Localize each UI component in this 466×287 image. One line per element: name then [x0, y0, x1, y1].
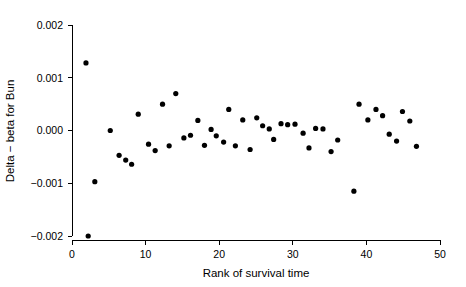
data-point	[160, 102, 165, 107]
data-point	[254, 115, 259, 120]
plot-canvas: −0.002−0.0010.0000.0010.002 01020304050 …	[0, 0, 466, 287]
x-tick-label: 50	[434, 248, 446, 260]
data-point	[356, 102, 361, 107]
data-point	[394, 138, 399, 143]
data-point	[86, 233, 91, 238]
data-point	[320, 126, 325, 131]
x-tick-label: 20	[213, 248, 225, 260]
data-point	[214, 133, 219, 138]
data-point	[260, 123, 265, 128]
data-point	[208, 127, 213, 132]
data-point	[240, 117, 245, 122]
y-tick-label: 0.000	[37, 124, 63, 136]
x-tick-label: 0	[69, 248, 75, 260]
data-point	[108, 128, 113, 133]
data-point	[146, 142, 151, 147]
data-point	[351, 189, 356, 194]
y-axis: −0.002−0.0010.0000.0010.002	[31, 19, 72, 242]
x-tick-label: 30	[287, 248, 299, 260]
data-point	[233, 143, 238, 148]
data-point	[407, 118, 412, 123]
y-tick-label: 0.002	[37, 19, 63, 31]
data-point	[414, 144, 419, 149]
data-point	[123, 157, 128, 162]
data-point	[221, 140, 226, 145]
data-point	[248, 147, 253, 152]
data-point	[328, 149, 333, 154]
data-point	[153, 148, 158, 153]
y-tick-label: −0.001	[31, 177, 64, 189]
data-point	[365, 117, 370, 122]
data-point	[285, 122, 290, 127]
data-point	[181, 135, 186, 140]
data-point	[271, 137, 276, 142]
data-point	[380, 113, 385, 118]
data-points-layer	[83, 60, 419, 238]
x-axis: 01020304050	[69, 240, 446, 260]
data-point	[173, 91, 178, 96]
data-point	[129, 162, 134, 167]
y-tick-label: −0.002	[31, 230, 64, 242]
data-point	[335, 137, 340, 142]
data-point	[387, 132, 392, 137]
data-point	[195, 118, 200, 123]
data-point	[202, 143, 207, 148]
data-point	[167, 143, 172, 148]
x-tick-label: 10	[140, 248, 152, 260]
y-axis-ticks: −0.002−0.0010.0000.0010.002	[31, 19, 72, 242]
data-point	[267, 126, 272, 131]
x-axis-ticks: 01020304050	[69, 240, 446, 260]
data-point	[116, 153, 121, 158]
y-axis-title: Delta − beta for Bun	[4, 80, 16, 183]
data-point	[313, 126, 318, 131]
data-point	[92, 179, 97, 184]
data-point	[136, 112, 141, 117]
data-point	[83, 60, 88, 65]
data-point	[188, 133, 193, 138]
data-point	[292, 122, 297, 127]
y-tick-label: 0.001	[37, 72, 63, 84]
data-point	[278, 121, 283, 126]
x-tick-label: 40	[361, 248, 373, 260]
x-axis-title: Rank of survival time	[203, 267, 310, 279]
data-point	[226, 107, 231, 112]
data-point	[400, 109, 405, 114]
data-point	[300, 131, 305, 136]
scatter-plot-figure: −0.002−0.0010.0000.0010.002 01020304050 …	[0, 0, 466, 287]
data-point	[373, 107, 378, 112]
data-point	[306, 145, 311, 150]
